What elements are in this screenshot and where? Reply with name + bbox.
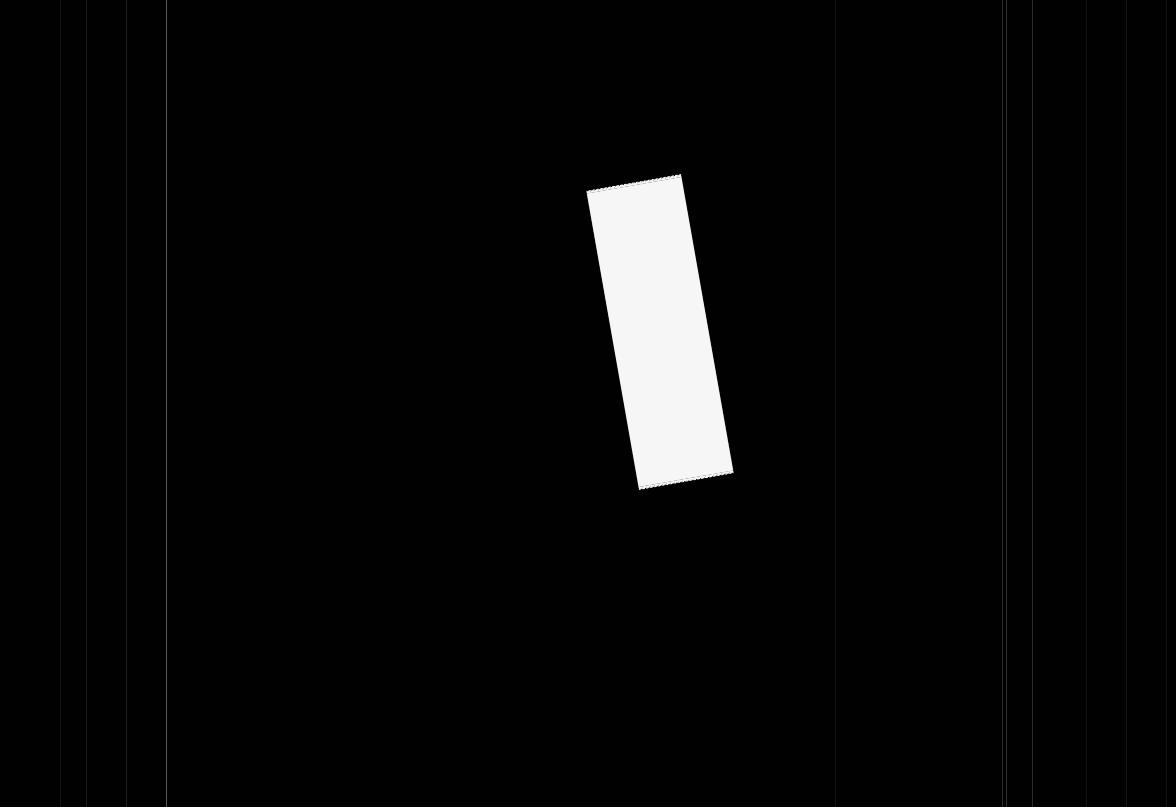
scan-line: [1086, 0, 1087, 807]
blank-paper-strip: [587, 177, 733, 487]
scan-line: [86, 0, 87, 807]
scan-line: [60, 0, 61, 807]
scan-line: [1166, 0, 1167, 807]
scan-line: [166, 0, 167, 807]
scan-line: [1126, 0, 1127, 807]
scan-line: [835, 0, 836, 807]
scan-line: [126, 0, 127, 807]
scanner-background: [0, 0, 1176, 807]
scan-line: [1032, 0, 1033, 807]
scan-line: [1002, 0, 1003, 807]
scan-line: [1006, 0, 1007, 807]
